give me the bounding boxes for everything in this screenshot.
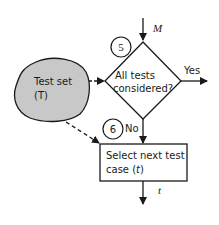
no-arrow: No	[125, 119, 143, 143]
step-6-number: 6	[110, 124, 116, 135]
output-label: t	[158, 184, 162, 196]
select-text-prefix: case (	[106, 164, 136, 175]
step-5-marker: 5	[111, 37, 131, 57]
no-label: No	[125, 123, 139, 134]
select-text-line2: case (t)	[106, 164, 144, 175]
flowchart-canvas: M 5 All tests considered? Yes Test set (…	[0, 0, 219, 225]
input-label: M	[152, 22, 163, 34]
select-text-line1: Select next test	[106, 150, 185, 161]
yes-label: Yes	[183, 65, 200, 76]
yes-arrow: Yes	[181, 65, 207, 81]
input-arrow-m: M	[143, 18, 163, 40]
step-5-number: 5	[118, 41, 124, 53]
test-set-line2: (T)	[34, 90, 48, 101]
test-set-blob: Test set (T)	[15, 58, 90, 121]
decision-text-line1: All tests	[115, 70, 155, 81]
select-next-test-case-box: Select next test case (t)	[100, 144, 187, 181]
step-6-marker: 6	[103, 119, 123, 139]
test-set-to-select-arrow	[66, 122, 99, 143]
decision-text-line2: considered?	[113, 83, 173, 94]
select-text-suffix: )	[140, 164, 144, 175]
test-set-line1: Test set	[33, 76, 72, 87]
output-arrow-t: t	[143, 181, 162, 204]
